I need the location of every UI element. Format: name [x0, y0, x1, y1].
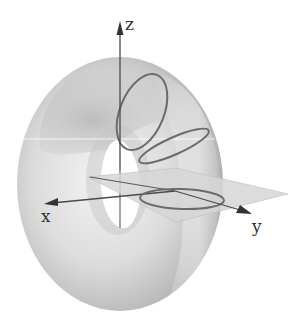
x-axis-label: x — [41, 206, 51, 226]
z-axis-arrowhead — [117, 21, 124, 35]
z-axis-label: z — [125, 14, 134, 34]
y-axis-label: y — [251, 216, 262, 236]
torus-diagram: z x y — [0, 0, 303, 326]
